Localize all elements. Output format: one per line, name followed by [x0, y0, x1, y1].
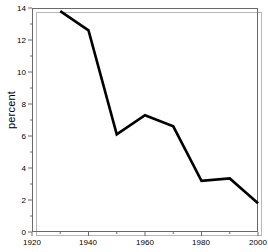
chart-figure: percent 14 12 10 8 6 4 2 0 1920 1940 196… — [0, 0, 268, 252]
tick-marks — [28, 8, 258, 236]
data-series-line — [60, 11, 258, 203]
chart-plot-area — [0, 0, 268, 252]
